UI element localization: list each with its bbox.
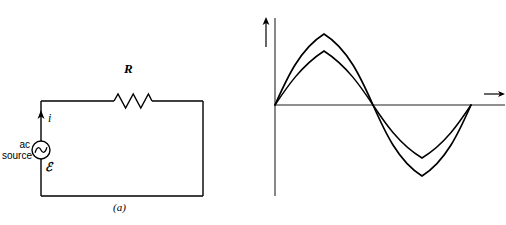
graph-svg (253, 0, 506, 225)
panel-a-circuit-diagram: R i ac source ℰ (a) (0, 0, 253, 225)
panel-b-waveform-graph: VR, i t VR i i VR (b) (253, 0, 506, 225)
current-label: i (48, 112, 51, 124)
ac-source-label-line1: ac (19, 139, 30, 150)
emf-label: ℰ (45, 161, 52, 173)
resistor-zigzag-icon (114, 94, 152, 108)
resistor-label: R (124, 62, 133, 75)
caption-a: (a) (113, 202, 126, 213)
ac-source-label-line2: source (2, 150, 32, 161)
circuit-svg (0, 0, 253, 225)
ac-source-label: ac source (2, 139, 30, 161)
figure-container: R i ac source ℰ (a) VR, i t (0, 0, 506, 225)
